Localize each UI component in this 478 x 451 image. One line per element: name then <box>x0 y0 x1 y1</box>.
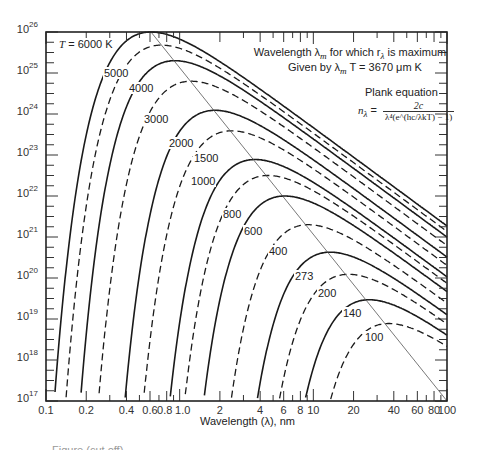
equation-numerator: 2c <box>383 100 454 112</box>
peak-annotation-line1: Wavelength λm for which rλ is maximum <box>252 46 448 61</box>
curve-label-4000: 4000 <box>128 82 154 94</box>
planck-equation: nλ = 2c λ⁴(e^(hc/λkT) − 1) <box>358 100 454 122</box>
curve-label-3000: 3000 <box>143 113 169 125</box>
x-tick-label: 1.0 <box>175 404 190 416</box>
curve-label-1000: 1000 <box>190 175 216 187</box>
curve-label-800: 800 <box>222 208 242 220</box>
curve-label-5000: 5000 <box>103 67 129 79</box>
curve-label-100: 100 <box>364 331 384 343</box>
x-tick-label: 10 <box>307 404 319 416</box>
x-tick-label: 40 <box>388 404 400 416</box>
curve-1500k <box>144 131 447 393</box>
x-axis-title: Wavelength (λ), nm <box>200 415 295 427</box>
x-tick-label: 100 <box>438 404 456 416</box>
curve-label-273: 273 <box>294 270 314 282</box>
y-tick-label: 1022 <box>0 187 38 199</box>
y-tick-label: 1020 <box>0 269 38 281</box>
x-tick-label: 8 <box>297 404 303 416</box>
x-tick-label: 0.2 <box>79 404 94 416</box>
y-tick-label: 1023 <box>0 146 38 158</box>
y-tick-label: 1026 <box>0 23 38 35</box>
y-tick-label: 1017 <box>0 392 38 404</box>
figure-caption-cutoff: Figure (cut off) <box>52 444 292 450</box>
curve-100k <box>331 324 447 400</box>
y-tick-label: 1021 <box>0 228 38 240</box>
x-tick-label: 0.1 <box>38 404 53 416</box>
curve-label-1500: 1500 <box>193 152 219 164</box>
x-tick-label: 20 <box>347 404 359 416</box>
equation-title: Plank equation <box>365 86 438 98</box>
curve-label-200: 200 <box>317 287 337 299</box>
x-tick-label: 0.6 <box>142 404 157 416</box>
peak-annotation-line2: Given by λm T = 3670 μm K <box>270 61 440 76</box>
x-tick-label: 0.4 <box>119 404 134 416</box>
y-tick-label: 1024 <box>0 105 38 117</box>
y-tick-label: 1018 <box>0 351 38 363</box>
curve-label-600: 600 <box>243 225 263 237</box>
curve-3000k <box>99 81 447 393</box>
curve-label-400: 400 <box>268 245 288 257</box>
x-tick-label: 0.8 <box>157 404 172 416</box>
y-tick-label: 1019 <box>0 310 38 322</box>
curve-label-2000: 2000 <box>168 137 194 149</box>
x-tick-label: 60 <box>411 404 423 416</box>
equation-denominator: λ⁴(e^(hc/λkT) − 1) <box>383 112 454 122</box>
curve-label-140: 140 <box>342 307 362 319</box>
y-tick-label: 1025 <box>0 64 38 76</box>
curve-140k <box>306 300 447 398</box>
curve-label-6000: T = 6000 K <box>58 38 114 50</box>
